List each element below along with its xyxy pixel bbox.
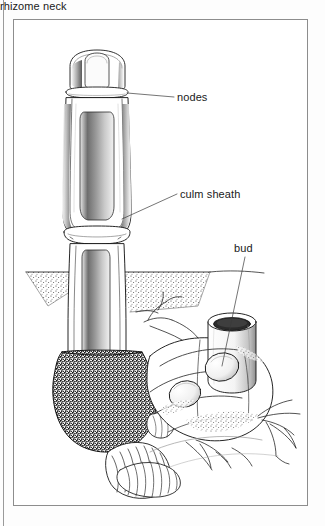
label-nodes: nodes [177,91,207,103]
label-bud: bud [234,242,253,254]
ground-line-group [26,271,264,312]
rhizome-mass-group [53,350,156,452]
label-culm-sheath: culm sheath [180,188,240,200]
culm-group [62,50,131,352]
label-rhizome-neck: rhizome neck [0,0,67,12]
figure-root: nodes culm sheath bud rhizome neck [0,0,325,526]
leader-nodes [127,93,174,97]
illustration-artwork [0,0,325,526]
